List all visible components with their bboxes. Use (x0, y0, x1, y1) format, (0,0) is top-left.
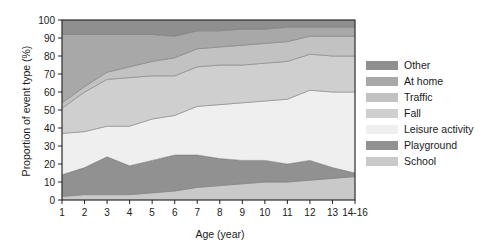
x-axis-title: Age (year) (160, 228, 280, 240)
legend-item: Fall (366, 105, 482, 121)
legend-item: School (366, 153, 482, 169)
x-tick-label: 7 (194, 207, 200, 218)
legend-swatch (366, 77, 398, 86)
y-tick-label: 10 (44, 177, 56, 188)
x-tick-label: 3 (104, 207, 110, 218)
legend-label: Leisure activity (404, 123, 473, 135)
x-tick-label: 6 (172, 207, 178, 218)
y-tick-label: 0 (49, 195, 55, 206)
legend-label: Other (404, 59, 430, 71)
chart-legend: OtherAt homeTrafficFallLeisure activityP… (366, 57, 482, 169)
x-tick-label: 12 (304, 207, 316, 218)
x-tick-label: 11 (282, 207, 293, 218)
y-tick-label: 40 (44, 123, 56, 134)
legend-label: Traffic (404, 91, 433, 103)
legend-swatch (366, 109, 398, 118)
legend-swatch (366, 141, 398, 150)
x-tick-label: 9 (240, 207, 246, 218)
legend-item: Other (366, 57, 482, 73)
y-tick-label: 70 (44, 69, 56, 80)
chart-figure: 0102030405060708090100 12345678910111213… (0, 0, 483, 250)
x-tick-label: 13 (327, 207, 339, 218)
legend-label: Fall (404, 107, 421, 119)
legend-item: Traffic (366, 89, 482, 105)
x-tick-label: 5 (149, 207, 155, 218)
x-tick-label: 14-16 (342, 207, 368, 218)
x-tick-label: 4 (127, 207, 133, 218)
legend-item: Playground (366, 137, 482, 153)
legend-swatch (366, 93, 398, 102)
legend-label: School (404, 155, 436, 167)
y-axis: 0102030405060708090100 (38, 15, 62, 206)
y-tick-label: 60 (44, 87, 56, 98)
legend-swatch (366, 61, 398, 70)
y-tick-label: 50 (44, 105, 56, 116)
x-axis: 1234567891011121314-16 (59, 200, 368, 218)
plot-areas (62, 20, 355, 200)
y-tick-label: 30 (44, 141, 56, 152)
x-tick-label: 10 (259, 207, 271, 218)
x-tick-label: 8 (217, 207, 223, 218)
legend-item: Leisure activity (366, 121, 482, 137)
legend-label: Playground (404, 139, 457, 151)
y-tick-label: 100 (38, 15, 55, 26)
x-tick-label: 1 (59, 207, 65, 218)
y-tick-label: 20 (44, 159, 56, 170)
legend-item: At home (366, 73, 482, 89)
y-tick-label: 80 (44, 51, 56, 62)
x-tick-label: 2 (82, 207, 88, 218)
y-tick-label: 90 (44, 33, 56, 44)
legend-swatch (366, 157, 398, 166)
legend-label: At home (404, 75, 443, 87)
y-axis-title: Proportion of event type (%) (20, 31, 32, 191)
legend-swatch (366, 125, 398, 134)
